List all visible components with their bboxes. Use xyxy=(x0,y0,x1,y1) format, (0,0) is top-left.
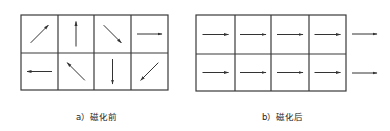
domain-arrow-up-left xyxy=(67,63,85,81)
panel-b-caption: b）磁化后 xyxy=(262,110,303,122)
domain-arrow-down-left xyxy=(141,63,159,81)
panel-b-grid xyxy=(196,15,346,91)
domain-arrow-down-right xyxy=(104,25,122,43)
magnetic-domain-diagram xyxy=(0,0,390,131)
domain-arrow-up-right xyxy=(31,25,49,43)
panel-a-caption: a）磁化前 xyxy=(76,110,117,122)
panel-a-grid xyxy=(21,15,168,90)
